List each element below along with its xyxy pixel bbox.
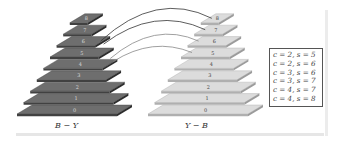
level-label: 7 [83,27,86,33]
connection-arc [113,46,192,61]
right-pyramid-caption: Y − B [185,121,208,130]
level-front-edge [174,68,233,70]
figure-shadow-right [325,10,328,136]
level-label: 5 [80,50,83,56]
level-label: 8 [85,15,88,21]
level-front-edge [37,80,106,82]
legend-entry: c = 4, s = 8 [273,95,319,104]
level-label: 4 [79,61,82,67]
level-front-edge [168,80,237,82]
connection-arc [104,20,206,44]
left-pyramid-caption: B − Y [55,121,78,130]
level-front-edge [50,57,99,59]
pyramid-level: 3 [37,71,121,82]
legend-box: c = 2, s = 5 c = 2, s = 6 c = 3, s = 6 c… [269,48,323,107]
level-label: 2 [207,84,210,90]
pyramid-level: 6 [188,37,242,48]
level-label: 6 [213,38,216,44]
level-front-edge [201,23,219,25]
pyramid-level: 1 [24,94,129,105]
pyramid-level: 6 [57,37,111,48]
level-label: 6 [82,38,85,44]
pyramid-level: 2 [30,82,125,93]
level-label: 8 [216,15,219,21]
level-front-edge [30,91,110,93]
right-pyramid: 012345678 [148,14,263,116]
level-front-edge [181,57,230,59]
level-label: 4 [210,61,213,67]
pyramid-level: 3 [168,71,252,82]
pyramid-level: 4 [43,59,117,70]
figure-shadow-bottom [16,133,324,136]
level-label: 0 [204,107,207,113]
level-front-edge [148,114,248,116]
pyramid-level: 5 [181,48,245,59]
level-label: 7 [214,27,217,33]
level-label: 0 [73,107,76,113]
level-front-edge [194,34,222,36]
pyramid-level: 4 [174,59,248,70]
pyramid-level: 7 [63,25,106,36]
level-front-edge [43,68,102,70]
level-label: 2 [76,84,79,90]
level-label: 3 [208,72,211,78]
level-front-edge [70,23,88,25]
pyramid-level: 7 [194,25,237,36]
pyramid-level: 0 [148,105,263,116]
level-front-edge [155,103,245,105]
pyramid-level: 2 [161,82,256,93]
level-label: 5 [211,50,214,56]
level-front-edge [188,46,227,48]
level-front-edge [161,91,241,93]
level-front-edge [57,46,96,48]
level-front-edge [24,103,114,105]
level-label: 3 [77,72,80,78]
pyramid-level: 5 [50,48,114,59]
level-label: 1 [205,95,208,101]
pyramid-level: 1 [155,94,260,105]
level-front-edge [17,114,117,116]
pyramid-level: 8 [70,14,103,25]
level-front-edge [63,34,91,36]
level-label: 1 [74,95,77,101]
pyramid-level: 0 [17,105,132,116]
